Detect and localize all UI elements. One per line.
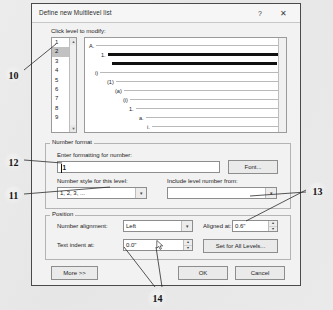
preview-row-number: A. [89,43,94,49]
number-alignment-label: Number alignment: [57,223,108,229]
callout-12: 12 [4,153,23,172]
scroll-up-icon[interactable]: ▲ [70,38,77,45]
preview-row: i) [95,69,280,76]
number-alignment-combobox[interactable]: Left ▾ [123,220,193,232]
preview-row-number: (a) [115,88,122,94]
callout-11: 11 [4,186,23,205]
preview-row: i. [147,123,280,130]
chevron-down-icon[interactable]: ▾ [265,188,276,198]
preview-row: (a) [115,87,284,94]
define-new-multilevel-list-dialog: Define new Multilevel list ? ✕ Click lev… [31,3,301,286]
preview-scrollbar[interactable] [278,38,286,132]
preview-row [110,60,277,67]
preview-row-line [96,45,282,47]
close-icon[interactable]: ✕ [275,7,291,20]
text-indent-value: 0.0" [126,242,136,248]
preview-row-number: i. [147,124,150,130]
number-style-label: Number style for this level: [57,178,128,184]
preview-row-line [136,108,282,110]
preview-row: 1. [101,51,282,58]
text-indent-spinner[interactable]: ▲ ▼ [183,240,192,250]
position-group-title: Position [50,211,75,217]
enter-formatting-label: Enter formatting for number: [57,152,132,158]
callout-14: 14 [148,289,167,308]
list-preview-pane: A.1.i)(1)(a)(i)1.a.i. [84,37,287,133]
preview-row-line [130,99,282,101]
callout-13: 13 [308,182,327,201]
preview-row-line [112,62,277,65]
preview-row-line [100,72,280,74]
preview-row-number: i) [95,70,98,76]
help-icon[interactable]: ? [252,7,268,20]
number-format-group-title: Number format [50,139,94,145]
preview-row: a. [139,114,282,121]
click-level-label: Click level to modify: [51,28,106,34]
preview-row-line [146,117,282,119]
callout-10: 10 [4,66,23,85]
aligned-at-label: Aligned at: [203,223,231,229]
preview-row-line [124,90,284,92]
spin-down-icon[interactable]: ▼ [184,246,192,251]
preview-row-line [116,81,284,83]
number-style-combobox[interactable]: 1, 2, 3, ... ▾ [57,187,147,199]
chevron-down-icon[interactable]: ▾ [135,188,146,198]
ok-button[interactable]: OK [178,266,228,280]
preview-row: 1. [129,105,282,112]
font-button[interactable]: Font... [228,160,278,174]
chevron-down-icon[interactable]: ▾ [181,221,192,231]
preview-row-number: (i) [123,97,128,103]
preview-row: A. [89,42,282,49]
scroll-down-icon[interactable]: ▼ [70,125,77,132]
mouse-cursor-icon [156,240,164,250]
preview-row-number: a. [139,115,144,121]
aligned-at-value: 0.6" [235,223,245,229]
include-level-combobox[interactable]: ▾ [167,187,277,199]
level-listbox-scrollbar[interactable]: ▲ ▼ [69,38,76,132]
cancel-button[interactable]: Cancel [235,266,285,280]
more-button[interactable]: More >> [51,266,98,280]
preview-row-number: 1. [129,106,134,112]
aligned-at-spinner[interactable]: ▲ ▼ [268,221,277,231]
preview-row: (1) [107,78,284,85]
level-listbox[interactable]: 123456789 ▲ ▼ [51,37,77,133]
dialog-titlebar: Define new Multilevel list ? ✕ [32,4,300,23]
include-level-label: Include level number from: [167,178,238,184]
enter-formatting-input[interactable]: 1 [57,161,220,173]
preview-row-line [108,53,282,56]
enter-formatting-value: 1 [63,162,67,174]
dialog-title: Define new Multilevel list [39,9,112,16]
preview-row-number: 1. [101,52,106,58]
spin-down-icon[interactable]: ▼ [269,227,277,232]
set-for-all-levels-button[interactable]: Set for All Levels... [203,239,278,253]
number-alignment-value: Left [126,223,136,229]
preview-row: (i) [123,96,282,103]
aligned-at-input[interactable]: 0.6" ▲ ▼ [232,220,278,232]
preview-row-number: (1) [107,79,114,85]
text-indent-label: Text indent at: [57,242,94,248]
number-style-value: 1, 2, 3, ... [60,190,85,196]
preview-row-line [152,126,280,128]
